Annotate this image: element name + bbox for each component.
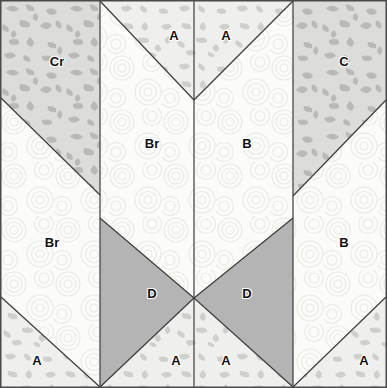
piece-b-right-label: B bbox=[339, 235, 348, 250]
piece-cr-top-left-label: Cr bbox=[50, 54, 64, 69]
piece-a-bottom-left-label: A bbox=[32, 353, 42, 368]
piece-br-left-label: Br bbox=[45, 235, 59, 250]
quilt-block-svg: CrBrAABrDAABDACBA bbox=[0, 0, 387, 388]
piece-a-bottom-center-right-label: A bbox=[221, 353, 231, 368]
piece-a-bottom-center-left-label: A bbox=[171, 353, 181, 368]
quilt-block-diagram: CrBrAABrDAABDACBA bbox=[0, 0, 387, 388]
piece-a-top-center-right-label: A bbox=[221, 28, 231, 43]
piece-br-center-left-label: Br bbox=[145, 136, 159, 151]
piece-d-right-label: D bbox=[242, 286, 251, 301]
piece-d-left-label: D bbox=[147, 286, 156, 301]
piece-a-top-center-left-label: A bbox=[169, 28, 179, 43]
piece-a-bottom-right-label: A bbox=[359, 353, 369, 368]
piece-b-center-right-label: B bbox=[242, 136, 251, 151]
piece-c-top-right-label: C bbox=[339, 54, 349, 69]
